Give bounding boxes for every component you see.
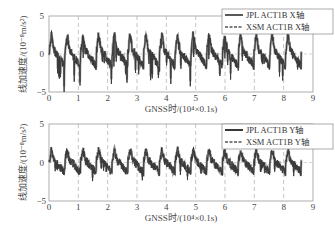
xtick-3: 3 (135, 93, 140, 103)
top-legend-item-jpl: JPL ACT1B X轴 (246, 10, 305, 20)
xtick-0: 0 (47, 93, 52, 103)
top-xlabel: GNSS时/(10⁴×0.1s) (145, 103, 217, 114)
bottom-ytick-0: 0 (40, 158, 45, 168)
xtick-2: 2 (105, 93, 110, 103)
xtick-1: 1 (76, 202, 81, 212)
xtick-6: 6 (223, 93, 228, 103)
xtick-5: 5 (193, 93, 198, 103)
bottom-ytick-5: 5 (40, 119, 45, 129)
xtick-7: 7 (252, 202, 257, 212)
xtick-4: 4 (164, 93, 169, 103)
xtick-0: 0 (47, 202, 52, 212)
top-ytick-5: 5 (40, 11, 45, 21)
top-xticks: 0123456789 (47, 93, 316, 103)
top-panel: 5 0 −5 0123456789 GNSS时/(10⁴×0.1s) 线加速度/… (17, 9, 333, 114)
xtick-8: 8 (281, 93, 286, 103)
xtick-1: 1 (76, 93, 81, 103)
bottom-xticks: 0123456789 (47, 202, 316, 212)
xtick-3: 3 (135, 202, 140, 212)
top-ylabel: 线加速度/(10⁻⁸m/s²) (17, 15, 28, 92)
bottom-xlabel: GNSS时/(10⁴×0.1s) (145, 212, 217, 223)
xtick-5: 5 (193, 202, 198, 212)
xtick-2: 2 (105, 202, 110, 212)
xtick-9: 9 (311, 202, 316, 212)
xtick-9: 9 (311, 93, 316, 103)
top-legend: JPL ACT1B X轴 XSM ACT1B X轴 (222, 9, 333, 34)
bottom-legend-item-xsm: XSM ACT1B Y轴 (246, 137, 310, 147)
bottom-legend-item-jpl: JPL ACT1B Y轴 (246, 125, 304, 135)
bottom-ylabel: 线加速度/(10⁻⁸m/s²) (17, 123, 28, 200)
xtick-7: 7 (252, 93, 257, 103)
xtick-6: 6 (223, 202, 228, 212)
xtick-8: 8 (281, 202, 286, 212)
top-legend-item-xsm: XSM ACT1B X轴 (246, 22, 310, 32)
bottom-panel: 5 0 −5 0123456789 GNSS时/(10⁴×0.1s) 线加速度/… (17, 119, 333, 223)
xtick-4: 4 (164, 202, 169, 212)
top-ytick-0: 0 (40, 49, 45, 59)
bottom-legend: JPL ACT1B Y轴 XSM ACT1B Y轴 (222, 124, 333, 149)
bottom-ytick-neg5: −5 (36, 196, 46, 206)
top-ytick-neg5: −5 (36, 87, 46, 97)
chart-figure: 5 0 −5 0123456789 GNSS时/(10⁴×0.1s) 线加速度/… (0, 0, 335, 238)
